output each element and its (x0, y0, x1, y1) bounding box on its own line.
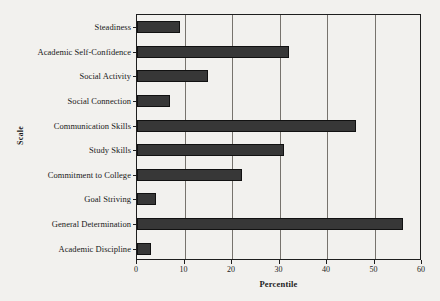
x-axis-tick (231, 260, 232, 264)
bar (137, 21, 180, 33)
x-axis-tick (184, 260, 185, 264)
x-axis-ticks: 0102030405060 (136, 260, 421, 280)
category-label: Commitment to College (48, 170, 131, 180)
category-label: General Determination (52, 219, 131, 229)
y-axis-title: Scale (16, 106, 25, 166)
bar (137, 193, 156, 205)
x-axis-tick (374, 260, 375, 264)
x-axis-tick (279, 260, 280, 264)
category-label: Steadiness (95, 22, 131, 32)
category-label: Goal Striving (84, 194, 131, 204)
x-axis-tick-label: 20 (227, 265, 235, 274)
x-axis-tick-label: 10 (180, 265, 188, 274)
category-label: Study Skills (89, 145, 131, 155)
x-axis-tick (421, 260, 422, 264)
bar (137, 169, 242, 181)
x-axis-title: Percentile (136, 279, 421, 289)
bar (137, 70, 208, 82)
bar (137, 95, 170, 107)
bar (137, 144, 284, 156)
x-axis-tick (326, 260, 327, 264)
x-axis-tick-label: 0 (134, 265, 138, 274)
category-row: Commitment to College (137, 163, 420, 188)
x-axis-tick (136, 260, 137, 264)
x-axis-tick-label: 30 (275, 265, 283, 274)
category-row: Academic Discipline (137, 236, 420, 261)
percentile-bar-chart: Scale SteadinessAcademic Self-Confidence… (0, 0, 440, 301)
category-label: Academic Self-Confidence (38, 47, 131, 57)
category-row: Communication Skills (137, 113, 420, 138)
category-label: Academic Discipline (59, 244, 131, 254)
category-row: General Determination (137, 212, 420, 237)
category-row: Steadiness (137, 15, 420, 40)
category-label: Social Connection (68, 96, 131, 106)
plot-area: SteadinessAcademic Self-ConfidenceSocial… (136, 14, 421, 260)
bar (137, 120, 356, 132)
category-row: Social Connection (137, 89, 420, 114)
bar (137, 46, 289, 58)
category-row: Academic Self-Confidence (137, 40, 420, 65)
bar (137, 243, 151, 255)
category-label: Social Activity (79, 71, 131, 81)
category-row: Social Activity (137, 64, 420, 89)
category-row: Goal Striving (137, 187, 420, 212)
category-label: Communication Skills (54, 121, 131, 131)
bar (137, 218, 403, 230)
x-axis-tick-label: 40 (322, 265, 330, 274)
category-row: Study Skills (137, 138, 420, 163)
x-axis-tick-label: 60 (417, 265, 425, 274)
x-axis-tick-label: 50 (370, 265, 378, 274)
